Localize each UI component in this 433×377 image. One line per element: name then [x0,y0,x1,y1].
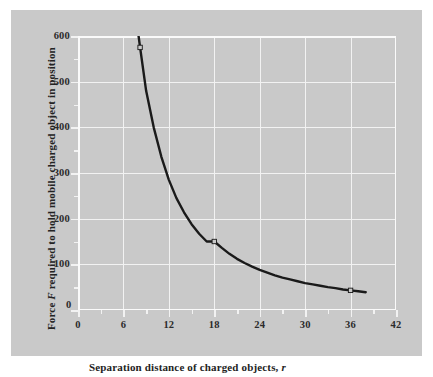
x-tick-minor [237,310,239,314]
y-tick-minor [74,196,78,198]
x-axis-variable: r [281,361,285,373]
y-axis-line [78,36,80,310]
gridline-x [305,36,306,310]
data-point-marker [138,45,142,49]
x-tick-major [214,310,216,317]
figure-panel: 06121824303642 100200300400500600 0 Sepa… [11,10,422,356]
y-tick-minor [74,150,78,152]
gridline-y [78,127,396,128]
y-tick-major [71,264,78,266]
x-tick-label: 30 [285,319,325,330]
y-tick-minor [74,242,78,244]
y-tick-minor [74,105,78,107]
y-tick-major [71,36,78,38]
x-tick-major [169,310,171,317]
x-tick-major [396,310,398,317]
x-axis-title-text: Separation distance of charged objects, [89,361,281,373]
x-tick-major [260,310,262,317]
y-tick-major [71,82,78,84]
gridline-y [78,173,396,174]
plot-right-border [395,36,397,310]
gridline-x [351,36,352,310]
plot-area [78,36,396,310]
y-tick-major [71,219,78,221]
y-tick-minor [74,287,78,289]
x-tick-minor [146,310,148,314]
x-tick-label: 24 [240,319,280,330]
x-tick-label: 42 [376,319,416,330]
plot-top-border [78,36,396,38]
x-tick-label: 36 [331,319,371,330]
y-axis-variable: F [45,292,57,300]
x-tick-major [305,310,307,317]
y-tick-major [71,127,78,129]
x-tick-minor [328,310,330,314]
gridline-y [78,264,396,265]
x-tick-label: 18 [194,319,234,330]
x-tick-major [351,310,353,317]
x-tick-major [78,310,80,317]
gridline-y [78,82,396,83]
y-tick-major [71,173,78,175]
gridline-x [169,36,170,310]
x-tick-minor [373,310,375,314]
x-tick-label: 6 [103,319,143,330]
y-axis-title-suffix: required to hold mobile charged object i… [45,47,57,292]
gridline-x [214,36,215,310]
x-axis-title: Separation distance of charged objects, … [89,361,286,373]
y-tick-minor [74,59,78,61]
x-tick-minor [282,310,284,314]
x-tick-label: 0 [58,319,98,330]
y-axis-title-prefix: Force [45,300,57,330]
x-tick-major [123,310,125,317]
y-tick-major [71,310,78,312]
origin-label: 0 [66,299,71,310]
gridline-x [123,36,124,310]
gridline-y [78,219,396,220]
x-tick-label: 12 [149,319,189,330]
x-tick-minor [192,310,194,314]
gridline-x [260,36,261,310]
y-axis-title: Force F required to hold mobile charged … [45,30,57,330]
x-tick-minor [101,310,103,314]
